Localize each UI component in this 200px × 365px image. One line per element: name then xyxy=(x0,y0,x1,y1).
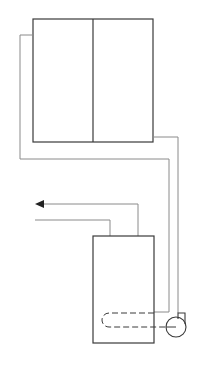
pump xyxy=(166,313,186,337)
cold-water-inlet xyxy=(35,220,110,236)
flow-pipe xyxy=(153,137,178,313)
collector-panel xyxy=(33,19,153,142)
arrow-left-icon xyxy=(35,200,44,208)
heat-exchanger-coil xyxy=(102,313,176,327)
return-pipe xyxy=(20,35,169,312)
hot-water-outlet xyxy=(35,200,138,236)
solar-heating-diagram xyxy=(0,0,200,365)
